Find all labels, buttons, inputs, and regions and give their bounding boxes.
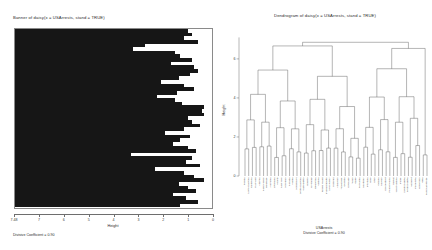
dendrogram-leaf-label: Tennessee: [340, 177, 343, 190]
dendrogram-leaf-label: Connecticut: [384, 177, 387, 191]
dendrogram-leaf-label: South Dakota: [403, 177, 406, 193]
banner-x-axis-label: Height: [108, 224, 119, 228]
dendrogram-leaf-label: Delaware: [265, 177, 268, 188]
dendrogram-leaf-label: Oklahoma: [314, 177, 317, 189]
banner-x-tick-label: 7.48: [11, 218, 18, 222]
dendrogram-leaf-label: Alaska: [291, 177, 294, 185]
banner-x-tick-label: 1: [187, 218, 189, 222]
dendrogram-leaf-label: New Hampshire: [425, 177, 428, 195]
banner-x-tick: [14, 214, 15, 217]
dendrogram-leaf-label: Minnesota: [414, 177, 417, 189]
dendrogram-leaf-label: Louisiana: [273, 177, 276, 188]
dendrogram-leaf-label: Texas: [351, 177, 354, 184]
dendrogram-leaf-label: North Carolina: [247, 177, 250, 194]
banner-bar: [15, 204, 180, 208]
dendrogram-leaf-label: Nevada: [288, 177, 291, 186]
dendrogram-tree: [245, 42, 427, 176]
dendrogram-leaf-label: Michigan: [284, 177, 287, 188]
banner-x-tick-label: 7: [38, 218, 40, 222]
dendrogram-y-axis: 0246: [233, 37, 239, 178]
dendrogram-leaf-label: Indiana: [377, 177, 380, 186]
dendrogram-leaf-label: Massachusetts: [325, 177, 328, 194]
dendrogram-panel: Dendrogram of daisy(x = USArrests, stand…: [216, 0, 432, 250]
dendrogram-leaf-label: Nebraska: [358, 177, 361, 188]
dendrogram-leaf-label: Colorado: [347, 177, 350, 188]
dendrogram-leaf-label: Maine: [399, 177, 402, 184]
banner-x-tick: [163, 214, 164, 217]
dendrogram-leaf-label: Maryland: [254, 177, 257, 188]
dendrogram-y-tick-label: 2: [233, 135, 235, 139]
dendrogram-leaf-label: New Mexico: [262, 177, 265, 191]
dendrogram-leaf-label: West Virginia: [395, 177, 398, 192]
dendrogram-leaf-label: Vermont: [410, 177, 413, 187]
banner-x-tick: [39, 214, 40, 217]
banner-plot-panel: Banner of daisy(x = USArrests, stand = T…: [0, 0, 216, 250]
banner-x-tick: [188, 214, 189, 217]
dendrogram-y-tick-label: 4: [233, 96, 235, 100]
dendrogram-leaf-labels: FloridaNorth CarolinaCaliforniaMarylandA…: [243, 177, 428, 196]
banner-x-tick-label: 6: [63, 218, 65, 222]
banner-x-tick: [89, 214, 90, 217]
dendrogram-leaf-label: Wisconsin: [418, 177, 421, 189]
dendrogram-leaf-label: Arkansas: [336, 177, 339, 188]
dendrogram-leaf-label: Oregon: [306, 177, 309, 186]
dendrogram-leaf-label: Kentucky: [362, 177, 365, 188]
dendrogram-leaf-label: Alabama: [269, 177, 272, 187]
banner-plot-title: Banner of daisy(x = USArrests, stand = T…: [13, 15, 105, 20]
banner-x-tick: [64, 214, 65, 217]
dendrogram-leaf-label: North Dakota: [406, 177, 409, 192]
banner-x-tick-label: 2: [162, 218, 164, 222]
banner-x-tick-label: 3: [137, 218, 139, 222]
dendrogram-leaf-label: Illinois: [276, 177, 279, 185]
banner-x-tick: [213, 214, 214, 217]
dendrogram-leaf-label: Ohio: [369, 177, 372, 183]
banner-x-tick-label: 4: [113, 218, 115, 222]
dendrogram-leaf-label: Rhode Island: [321, 177, 324, 192]
dendrogram-leaf-label: Virginia: [317, 177, 320, 186]
dendrogram-leaf-label: California: [250, 177, 253, 188]
dendrogram-leaf-label: Wyoming: [310, 177, 313, 188]
dendrogram-leaf-label: New York: [280, 177, 283, 188]
dendrogram-leaf-label: Mississippi: [295, 177, 298, 190]
dendrogram-leaf-label: Montana: [366, 177, 369, 187]
dendrogram-leaf-label: South Carolina: [299, 177, 302, 194]
dendrogram-y-tick-label: 6: [233, 57, 235, 61]
dendrogram-leaf-label: Utah: [373, 177, 376, 183]
dendrogram-leaf-label: Washington: [302, 177, 305, 191]
dendrogram-y-tick-label: 0: [233, 174, 235, 178]
dendrogram-leaf-label: Missouri: [332, 177, 335, 187]
banner-x-tick: [138, 214, 139, 217]
dendrogram-caption: USArrests Divisive Coefficient = 0.90: [303, 226, 344, 236]
banner-row: [15, 204, 212, 208]
dendrogram-leaf-label: Arizona: [258, 177, 261, 186]
dendrogram-leaf-label: Hawaii: [392, 177, 395, 185]
banner-caption: Divisive Coefficient = 0.90: [13, 233, 54, 237]
dendrogram-leaf-label: Iowa: [421, 177, 424, 183]
banner-x-axis: 7.4876543210: [14, 214, 213, 215]
dendrogram-leaf-label: Idaho: [354, 177, 357, 184]
banner-plot-area: [14, 28, 213, 209]
dendrogram-y-axis-label: Height: [222, 105, 226, 116]
dendrogram-caption-line2: Divisive Coefficient = 0.90: [303, 231, 344, 236]
dendrogram-leaf-label: Georgia: [343, 177, 346, 187]
banner-x-tick-label: 5: [88, 218, 90, 222]
dendrogram-leaf-label: Kansas: [380, 177, 383, 186]
dendrogram-leaf-label: New Jersey: [328, 177, 331, 191]
dendrogram-leaf-label: Pennsylvania: [388, 177, 391, 192]
dendrogram-plot-area: 0246 FloridaNorth CarolinaCaliforniaMary…: [216, 0, 432, 250]
banner-x-tick: [114, 214, 115, 217]
dendrogram-leaf-label: Florida: [243, 177, 246, 185]
banner-x-tick-label: 0: [212, 218, 214, 222]
